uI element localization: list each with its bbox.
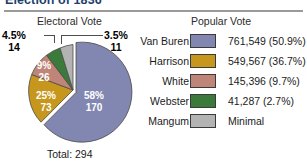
electoral-total-label: Total: 294 bbox=[47, 148, 93, 160]
legend-value-white: 145,396 (9.7%) bbox=[228, 75, 300, 87]
popular-vote-legend: Van Buren 761,549 (50.9%) Harrison 549,5… bbox=[145, 32, 305, 132]
pie-label-harrison-count: 73 bbox=[40, 102, 52, 113]
legend-swatch-mangum bbox=[190, 114, 216, 128]
legend-swatch-harrison bbox=[190, 54, 216, 68]
chart-title-clip: Election of 1836 bbox=[0, 0, 307, 9]
legend-row[interactable]: Van Buren 761,549 (50.9%) bbox=[145, 32, 305, 52]
pie-label-van-buren-count: 170 bbox=[86, 102, 103, 113]
pie-label-white-percent: 9% bbox=[37, 60, 52, 71]
legend-name-harrison: Harrison bbox=[149, 55, 189, 67]
leader-line-mangum bbox=[61, 35, 103, 36]
legend-name-mangum: Mangum bbox=[148, 115, 189, 127]
leader-line-webster-stem bbox=[54, 35, 55, 43]
pie-callout-webster-count: 14 bbox=[2, 41, 26, 53]
legend-value-harrison: 549,567 (36.7%) bbox=[228, 55, 306, 67]
legend-name-van-buren: Van Buren bbox=[140, 35, 189, 47]
pie-callout-mangum-count: 11 bbox=[104, 41, 128, 53]
legend-row[interactable]: Webster 41,287 (2.7%) bbox=[145, 92, 305, 112]
pie-label-van-buren-percent: 58% bbox=[84, 90, 104, 101]
leader-line-mangum-stem bbox=[61, 35, 62, 44]
legend-value-mangum: Minimal bbox=[228, 115, 264, 127]
popular-vote-heading: Popular Vote bbox=[191, 15, 251, 27]
pie-callout-mangum-percent: 3.5% bbox=[104, 29, 128, 41]
legend-value-van-buren: 761,549 (50.9%) bbox=[228, 35, 306, 47]
pie-label-harrison-percent: 25% bbox=[36, 90, 56, 101]
legend-swatch-white bbox=[190, 74, 216, 88]
pie-callout-mangum: 3.5% 11 bbox=[104, 29, 128, 53]
legend-name-webster: Webster bbox=[150, 95, 189, 107]
legend-swatch-webster bbox=[190, 94, 216, 108]
pie-label-white-count: 26 bbox=[38, 72, 50, 83]
legend-row[interactable]: Harrison 549,567 (36.7%) bbox=[145, 52, 305, 72]
pie-callout-webster: 4.5% 14 bbox=[2, 29, 26, 53]
legend-name-white: White bbox=[162, 75, 189, 87]
legend-row[interactable]: White 145,396 (9.7%) bbox=[145, 72, 305, 92]
legend-swatch-van-buren bbox=[190, 34, 216, 48]
pie-callout-webster-percent: 4.5% bbox=[2, 29, 26, 41]
title-divider bbox=[4, 10, 303, 12]
chart-title: Election of 1836 bbox=[5, 0, 102, 7]
legend-value-webster: 41,287 (2.7%) bbox=[228, 95, 294, 107]
legend-row[interactable]: Mangum Minimal bbox=[145, 112, 305, 132]
election-chart-figure: Election of 1836 Electoral Vote Popular … bbox=[0, 0, 307, 168]
